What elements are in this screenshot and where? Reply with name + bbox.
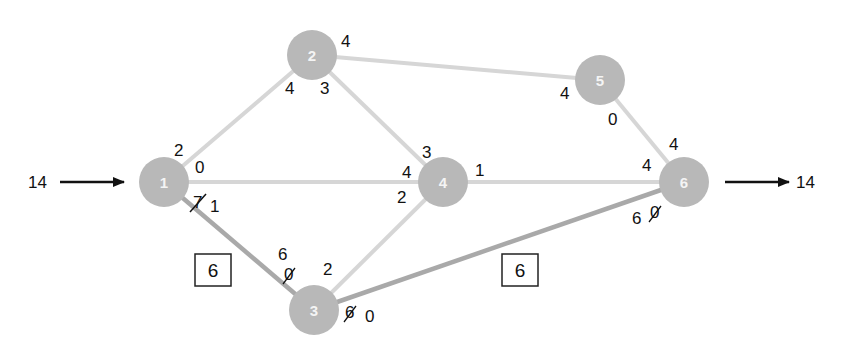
cap-3-to-6-new: 0 (365, 307, 374, 326)
cap-1-to-3-old-struck: 7 (190, 193, 206, 212)
node-3-label: 3 (310, 302, 318, 319)
svg-text:6: 6 (208, 260, 219, 281)
edge-2-5 (312, 55, 600, 80)
sink-flow-label: 14 (796, 173, 815, 192)
cap-6-from-5: 4 (669, 135, 678, 154)
cap-1-to-2: 2 (174, 141, 183, 160)
cap-4-from-3: 2 (397, 188, 406, 207)
cap-2-to-1: 4 (285, 79, 294, 98)
node-2: 2 (287, 30, 337, 80)
node-5-label: 5 (596, 72, 604, 89)
node-4: 4 (418, 157, 468, 207)
node-1-label: 1 (160, 174, 168, 191)
node-2-label: 2 (308, 47, 316, 64)
node-4-label: 4 (439, 174, 448, 191)
cap-2-to-4: 3 (320, 79, 329, 98)
cap-1-to-3-new: 1 (210, 197, 219, 216)
cap-4-from-1: 4 (402, 163, 411, 182)
cap-6-from-4: 4 (642, 156, 651, 175)
edge-3-6 (314, 182, 684, 310)
edge-1-2 (164, 55, 312, 182)
node-6: 6 (659, 157, 709, 207)
svg-text:6: 6 (515, 260, 526, 281)
node-6-label: 6 (680, 174, 688, 191)
cap-5-to-6: 0 (608, 110, 617, 129)
cap-6-from-3-a: 6 (632, 209, 641, 228)
edge-1-3 (164, 182, 314, 310)
node-3: 3 (289, 285, 339, 335)
node-5: 5 (575, 55, 625, 105)
cap-5-from-2: 4 (560, 84, 569, 103)
cap-1-to-4: 0 (195, 158, 204, 177)
cap-3-from-1-b-struck: 0 (283, 265, 295, 284)
source-flow-label: 14 (28, 173, 47, 192)
cap-4-from-2: 3 (422, 143, 431, 162)
path-flow-box-left: 6 (195, 254, 231, 286)
edge-3-4 (314, 182, 443, 310)
path-flow-box-right: 6 (502, 254, 538, 286)
cap-4-to-6: 1 (475, 161, 484, 180)
edge-2-4 (312, 55, 443, 182)
cap-3-from-1-a: 6 (278, 245, 287, 264)
cap-3-to-6-struck: 6 (344, 303, 356, 322)
node-1: 1 (139, 157, 189, 207)
flow-network-diagram: 14 14 1 2 3 4 5 6 2 0 7 1 4 4 3 3 4 1 2 … (0, 0, 850, 347)
cap-2-to-5: 4 (341, 32, 350, 51)
cap-3-to-4: 2 (323, 260, 332, 279)
cap-6-from-3-b-struck: 0 (649, 203, 661, 222)
